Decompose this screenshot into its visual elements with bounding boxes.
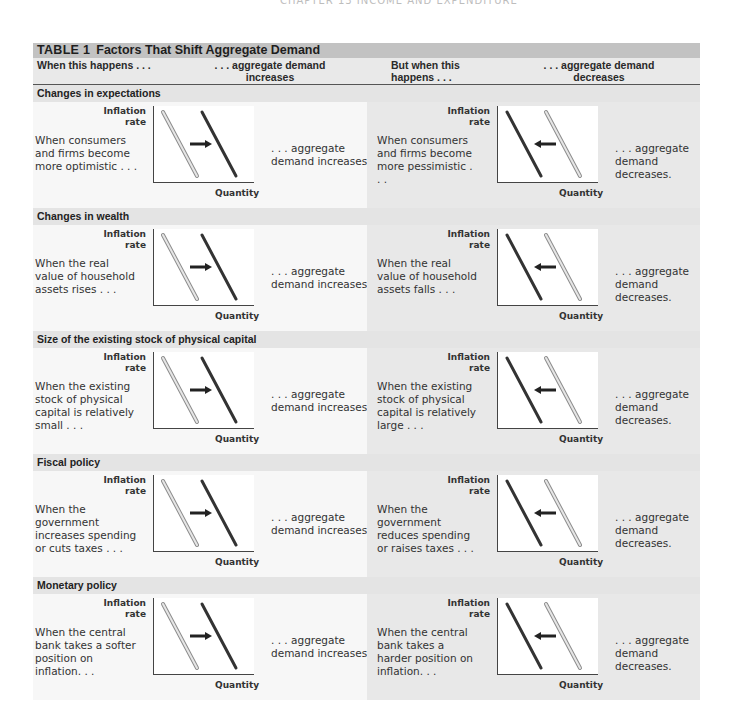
decrease-effect-text: . . . aggregate demand decreases. xyxy=(615,634,715,673)
increase-effect-text: . . . aggregate demand increases. xyxy=(271,511,371,537)
decrease-panel: When the existing stock of physical capi… xyxy=(367,348,700,454)
increase-effect-text: . . . aggregate demand increases. xyxy=(271,265,371,291)
y-axis-label: Inflation rate xyxy=(430,352,490,374)
section-title: Monetary policy xyxy=(33,577,700,594)
decrease-panel: When the government reduces spending or … xyxy=(367,471,700,577)
x-axis-label: Quantity xyxy=(559,188,603,199)
col-header-but-when-this-happens: But when this happens . . . xyxy=(384,58,481,84)
ad-shift-right-graph: Inflation rate Quantity xyxy=(33,352,193,452)
ad-shift-right-graph: Inflation rate Quantity xyxy=(33,106,193,206)
decrease-effect-text: . . . aggregate demand decreases. xyxy=(615,265,715,304)
column-headers: When this happens . . . . . . aggregate … xyxy=(33,58,700,85)
ad-curves-shift-right-icon xyxy=(154,475,254,551)
x-axis-label: Quantity xyxy=(559,680,603,691)
section-body: When consumers and firms become more opt… xyxy=(33,102,700,208)
table-title: Factors That Shift Aggregate Demand xyxy=(96,43,320,57)
section-title: Changes in expectations xyxy=(33,85,700,102)
section-body: When the existing stock of physical capi… xyxy=(33,348,700,454)
table-section: Changes in wealth When the real value of… xyxy=(33,208,700,331)
ad-curves-shift-left-icon xyxy=(498,106,598,182)
ad-shift-right-graph: Inflation rate Quantity xyxy=(33,229,193,329)
decrease-effect-text: . . . aggregate demand decreases. xyxy=(615,511,715,550)
ad-shift-left-graph: Inflation rate Quantity xyxy=(377,229,537,329)
ad-curves-shift-left-icon xyxy=(498,475,598,551)
y-axis-label: Inflation rate xyxy=(430,229,490,251)
increase-panel: When consumers and firms become more opt… xyxy=(33,102,367,208)
y-axis-label: Inflation rate xyxy=(430,475,490,497)
x-axis-label: Quantity xyxy=(215,188,259,199)
y-axis-label: Inflation rate xyxy=(430,598,490,620)
increase-panel: When the central bank takes a softer pos… xyxy=(33,594,367,700)
ad-shift-left-graph: Inflation rate Quantity xyxy=(377,106,537,206)
table-section: Monetary policy When the central bank ta… xyxy=(33,577,700,700)
ad-shift-left-graph: Inflation rate Quantity xyxy=(377,352,537,452)
table-section: Changes in expectations When consumers a… xyxy=(33,85,700,208)
ad-curves-shift-right-icon xyxy=(154,352,254,428)
plot-area xyxy=(153,475,254,552)
plot-area xyxy=(497,598,598,675)
increase-panel: When the existing stock of physical capi… xyxy=(33,348,367,454)
col-header-when-this-happens: When this happens . . . xyxy=(33,58,155,84)
plot-area xyxy=(153,106,254,183)
section-title: Fiscal policy xyxy=(33,454,700,471)
decrease-panel: When the central bank takes a harder pos… xyxy=(367,594,700,700)
ad-shift-left-graph: Inflation rate Quantity xyxy=(377,598,537,698)
increase-effect-text: . . . aggregate demand increases. xyxy=(271,388,371,414)
ad-curves-shift-right-icon xyxy=(154,598,254,674)
ad-curves-shift-right-icon xyxy=(154,106,254,182)
plot-area xyxy=(153,352,254,429)
col-header-ad-decreases: . . . aggregate demand decreases xyxy=(529,58,669,84)
ad-curves-shift-right-icon xyxy=(154,229,254,305)
increase-panel: When the real value of household assets … xyxy=(33,225,367,331)
plot-area xyxy=(497,352,598,429)
y-axis-label: Inflation rate xyxy=(86,598,146,620)
section-body: When the government increases spending o… xyxy=(33,471,700,577)
section-body: When the real value of household assets … xyxy=(33,225,700,331)
section-body: When the central bank takes a softer pos… xyxy=(33,594,700,700)
x-axis-label: Quantity xyxy=(215,680,259,691)
section-title: Changes in wealth xyxy=(33,208,700,225)
y-axis-label: Inflation rate xyxy=(86,352,146,374)
x-axis-label: Quantity xyxy=(559,557,603,568)
factors-table: TABLE 1Factors That Shift Aggregate Dema… xyxy=(33,43,700,700)
y-axis-label: Inflation rate xyxy=(430,106,490,128)
table-section: Fiscal policy When the government increa… xyxy=(33,454,700,577)
ad-shift-right-graph: Inflation rate Quantity xyxy=(33,598,193,698)
x-axis-label: Quantity xyxy=(559,311,603,322)
ad-shift-left-graph: Inflation rate Quantity xyxy=(377,475,537,575)
ad-curves-shift-left-icon xyxy=(498,229,598,305)
ad-curves-shift-left-icon xyxy=(498,598,598,674)
increase-effect-text: . . . aggregate demand increases. xyxy=(271,634,371,660)
increase-panel: When the government increases spending o… xyxy=(33,471,367,577)
x-axis-label: Quantity xyxy=(215,311,259,322)
section-title: Size of the existing stock of physical c… xyxy=(33,331,700,348)
x-axis-label: Quantity xyxy=(215,557,259,568)
plot-area xyxy=(497,475,598,552)
plot-area xyxy=(497,106,598,183)
table-label: TABLE 1 xyxy=(37,43,90,57)
x-axis-label: Quantity xyxy=(215,434,259,445)
plot-area xyxy=(153,598,254,675)
table-section: Size of the existing stock of physical c… xyxy=(33,331,700,454)
plot-area xyxy=(153,229,254,306)
plot-area xyxy=(497,229,598,306)
y-axis-label: Inflation rate xyxy=(86,229,146,251)
running-head: CHAPTER 13 INCOME AND EXPENDITURE xyxy=(280,0,700,8)
y-axis-label: Inflation rate xyxy=(86,106,146,128)
ad-shift-right-graph: Inflation rate Quantity xyxy=(33,475,193,575)
increase-effect-text: . . . aggregate demand increases. xyxy=(271,142,371,168)
table-body: Changes in expectations When consumers a… xyxy=(33,85,700,700)
decrease-effect-text: . . . aggregate demand decreases. xyxy=(615,388,715,427)
ad-curves-shift-left-icon xyxy=(498,352,598,428)
table-title-bar: TABLE 1Factors That Shift Aggregate Dema… xyxy=(33,43,700,58)
decrease-effect-text: . . . aggregate demand decreases. xyxy=(615,142,715,181)
decrease-panel: When the real value of household assets … xyxy=(367,225,700,331)
y-axis-label: Inflation rate xyxy=(86,475,146,497)
x-axis-label: Quantity xyxy=(559,434,603,445)
decrease-panel: When consumers and firms become more pes… xyxy=(367,102,700,208)
col-header-ad-increases: . . . aggregate demand increases xyxy=(200,58,340,84)
